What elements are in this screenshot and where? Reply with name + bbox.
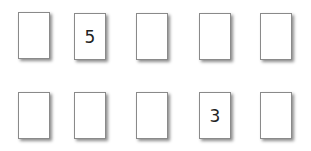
card-r2-c2[interactable]: [74, 92, 106, 139]
card-r1-c1[interactable]: [18, 12, 50, 59]
card-r1-c5[interactable]: [260, 13, 292, 60]
card-r1-c3[interactable]: [136, 13, 168, 60]
card-r2-c3[interactable]: [136, 92, 168, 139]
card-r2-c4[interactable]: 3: [199, 92, 231, 139]
card-r2-c5[interactable]: [260, 92, 292, 139]
card-r2-c1[interactable]: [18, 92, 50, 139]
card-r1-c4[interactable]: [199, 13, 231, 60]
card-r1-c2[interactable]: 5: [74, 13, 106, 60]
